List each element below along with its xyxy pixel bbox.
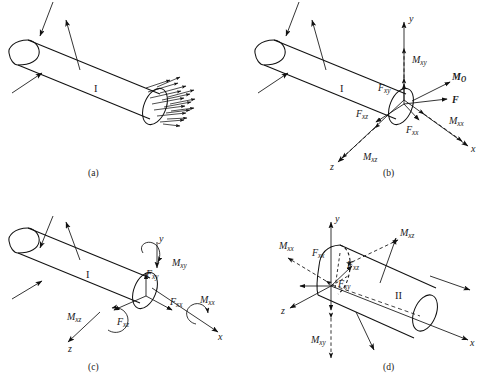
moment-vectors-b — [342, 48, 462, 158]
force-vectors-d — [300, 253, 352, 310]
label-Fxx-c: Fxx — [169, 296, 183, 309]
axis-label-x-c: x — [217, 331, 223, 342]
label-Mxz-d: Mxz — [399, 227, 415, 240]
segment-label-d: II — [395, 290, 402, 301]
label-Mxx-d: Mxx — [278, 240, 295, 253]
label-Mxz-b: Mxz — [362, 151, 378, 164]
external-load-arrows-d — [356, 238, 470, 350]
axis-label-z-b: z — [329, 161, 334, 172]
axis-label-y-b: y — [408, 13, 414, 24]
coordinate-axes-d: y x z — [280, 213, 475, 348]
cylinder-body-a — [9, 40, 172, 128]
label-Fxx-d: Fxx — [311, 247, 325, 260]
segment-label-c: I — [86, 269, 90, 280]
axis-label-z-d: z — [280, 305, 285, 316]
caption-c: (c) — [88, 362, 99, 373]
force-vectors-c — [114, 274, 172, 310]
figure-root: I (a) y x z — [0, 0, 492, 390]
axis-label-x-d: x — [469, 337, 475, 348]
axis-label-y-c: y — [158, 233, 164, 244]
label-Mxx-b: Mxx — [448, 115, 465, 128]
panel-d: y x z Mxx Fxx — [278, 213, 475, 373]
distributed-stress-arrows-a — [146, 77, 195, 126]
label-Fxy-b: Fxy — [377, 82, 391, 95]
panel-c: y x z Mxy Fxy Fxx Mxx — [9, 216, 223, 373]
label-Mxy-d: Mxy — [310, 334, 327, 347]
force-moment-labels-c: Mxy Fxy Fxx Mxx Fxz Mxz — [66, 257, 216, 329]
cylinder-body-b — [255, 40, 418, 128]
cylinder-body-d — [317, 245, 442, 338]
label-Fxz-c: Fxz — [116, 316, 129, 329]
axis-label-y-d: y — [334, 213, 340, 224]
panel-b: y x z Mxy — [255, 2, 476, 179]
caption-a: (a) — [88, 168, 99, 179]
label-Fxx-b: Fxx — [405, 124, 419, 137]
axis-label-z-c: z — [67, 343, 72, 354]
axis-label-x-b: x — [470, 143, 476, 154]
moment-vectors-d — [288, 240, 398, 358]
panel-a: I (a) — [9, 2, 195, 179]
label-Fxz-b: Fxz — [355, 108, 368, 121]
figure-canvas: I (a) y x z — [0, 0, 492, 390]
label-F-b: F — [451, 94, 459, 105]
caption-b: (b) — [383, 168, 394, 179]
segment-label-b: I — [340, 83, 344, 94]
segment-label-a: I — [94, 83, 98, 94]
label-Mxz-c: Mxz — [66, 311, 82, 324]
label-Mxy-b: Mxy — [411, 54, 428, 67]
label-Mxx-c: Mxx — [199, 294, 216, 307]
label-Mxy-c: Mxy — [171, 257, 188, 270]
label-MO-b: MO — [451, 71, 466, 84]
caption-d: (d) — [383, 362, 394, 373]
label-Fxy-c: Fxy — [145, 268, 159, 281]
